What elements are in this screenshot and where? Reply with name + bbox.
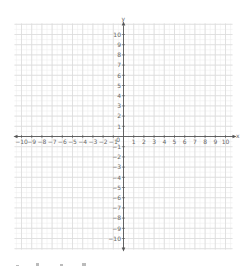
x-tick-label: 6 [183,138,187,145]
x-tick-label: 8 [203,138,207,145]
y-tick-label: 5 [117,82,121,89]
x-tick-label: −7 [48,138,57,145]
x-tick-label: 7 [193,138,197,145]
y-tick-label: 1 [117,123,121,130]
x-tick-label: 3 [152,138,156,145]
footer-marks [14,253,114,259]
x-tick-label: −5 [68,138,77,145]
y-tick-label: −7 [112,204,121,211]
y-tick-label: 6 [117,72,121,79]
x-tick-label: 4 [162,138,166,145]
x-tick-label: 2 [142,138,146,145]
x-tick-label: 10 [222,138,230,145]
y-tick-label: −2 [112,153,121,160]
y-tick-label: 10 [113,31,121,38]
y-axis-label: y [122,15,126,23]
y-tick-label: 3 [117,102,121,109]
y-tick-label: 7 [117,61,121,68]
x-tick-label: −6 [58,138,67,145]
y-tick-label: −10 [108,235,121,242]
y-tick-label: −1 [112,143,121,150]
x-tick-label: −3 [88,138,97,145]
footer-dots-icon [14,262,114,266]
x-tick-label: 9 [213,138,217,145]
x-axis-label: x [236,132,240,139]
y-tick-label: −9 [112,225,121,232]
y-tick-label: −3 [112,163,121,170]
y-tick-label: −6 [112,194,121,201]
x-tick-label: 5 [173,138,177,145]
x-tick-label: −2 [99,138,108,145]
y-tick-label: −4 [112,174,121,181]
y-tick-label: −8 [112,214,121,221]
y-axis-arrow-up-icon [122,22,126,26]
x-tick-label: −4 [78,138,87,145]
y-tick-label: 4 [117,92,121,99]
y-tick-label: 9 [117,41,121,48]
x-tick-label: −9 [27,138,36,145]
y-tick-label: 8 [117,51,121,58]
x-tick-label: 1 [132,138,136,145]
x-tick-label: −10 [15,138,28,145]
y-tick-label: −5 [112,184,121,191]
origin-label: 0 [116,136,120,143]
coordinate-plane: −10−9−8−7−6−5−4−3−2−112345678910 −10−9−8… [0,0,245,266]
y-axis-arrow-down-icon [122,248,126,252]
y-tick-label: 2 [117,112,121,119]
x-tick-label: −8 [37,138,46,145]
